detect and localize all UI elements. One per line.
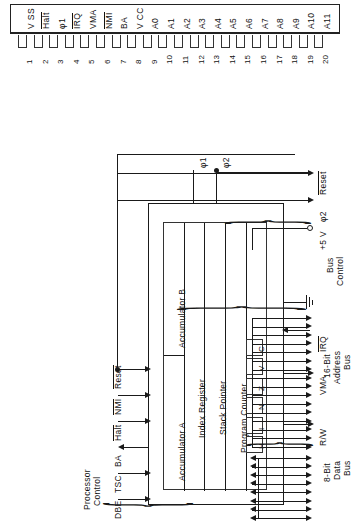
pin-number-10: 10 — [165, 55, 174, 64]
address-line-14 — [252, 438, 308, 439]
data-line-6 — [252, 510, 308, 511]
data-line-2 — [252, 475, 308, 476]
pin-label-19: A10 — [306, 13, 316, 29]
register-separator-1 — [204, 223, 205, 491]
processor-control-tsc-arrow — [145, 470, 151, 476]
pin-6[interactable] — [96, 35, 105, 48]
processor-control-nmi-arrow — [145, 392, 151, 398]
data-bus-trunk — [258, 458, 259, 518]
phi1-wire — [193, 170, 194, 203]
pin-10[interactable] — [158, 35, 167, 48]
data-arrow-in-3 — [250, 480, 256, 486]
address-line-9 — [252, 395, 308, 396]
pin-14[interactable] — [221, 35, 230, 48]
pin-18[interactable] — [283, 35, 292, 48]
pin-number-14: 14 — [228, 55, 237, 64]
processor-control-brace: { — [92, 503, 188, 507]
address-line-15 — [252, 447, 308, 448]
pin-label-10: A1 — [166, 18, 176, 29]
processor-control-halt-arrow — [145, 418, 151, 424]
data-arrow-out-7 — [306, 515, 312, 521]
pin-2[interactable] — [34, 35, 43, 48]
pin-4[interactable] — [65, 35, 74, 48]
pin-9[interactable] — [143, 35, 152, 48]
flag-label-c: C — [257, 346, 266, 352]
pin-19[interactable] — [299, 35, 308, 48]
data-arrow-out-4 — [306, 489, 312, 495]
data-line-5 — [252, 501, 308, 502]
address-line-13 — [252, 430, 308, 431]
processor-control-label-2: Control — [92, 476, 102, 506]
address-arrow-2 — [306, 332, 312, 338]
phi2-wire — [216, 170, 217, 203]
address-arrow-11 — [306, 409, 312, 415]
pin-5[interactable] — [80, 35, 89, 48]
address-arrow-12 — [306, 418, 312, 424]
data-arrow-in-5 — [250, 498, 256, 504]
pin-20[interactable] — [314, 35, 323, 48]
pin-number-17: 17 — [275, 55, 284, 64]
pin-label-8: V CC — [135, 7, 145, 29]
data-arrow-in-7 — [250, 515, 256, 521]
processor-control-ba-arrow — [118, 444, 124, 450]
pin-label-15: A6 — [244, 18, 254, 29]
pin-number-18: 18 — [290, 55, 299, 64]
flag-label-n: N — [257, 404, 266, 410]
processor-control-label-1: Processor — [82, 469, 92, 510]
pin-15[interactable] — [236, 35, 245, 48]
pin-17[interactable] — [268, 35, 277, 48]
pin-11[interactable] — [174, 35, 183, 48]
pin-label-17: A8 — [275, 18, 285, 29]
data-arrow-out-2 — [306, 472, 312, 478]
pin-label-12: A3 — [197, 18, 207, 29]
bus-control-phi2-wire — [117, 200, 310, 201]
phi2-label: φ2 — [221, 157, 231, 168]
bus-control-phi2-arrow — [308, 197, 314, 203]
address-bus-trunk — [252, 318, 253, 447]
data-line-7 — [252, 518, 308, 519]
pin-8[interactable] — [127, 35, 136, 48]
pin-label-20: A11 — [322, 13, 332, 29]
data-arrow-out-0 — [306, 455, 312, 461]
address-line-7 — [252, 378, 308, 379]
pin-label-18: A9 — [291, 18, 301, 29]
data-line-3 — [252, 484, 308, 485]
address-arrow-9 — [306, 392, 312, 398]
processor-control-tsc-label: TSC — [113, 475, 123, 493]
data-arrow-out-5 — [306, 498, 312, 504]
pin-number-1: 1 — [25, 60, 34, 64]
flag-cell-i — [246, 417, 263, 434]
data-bus-label-1: 8-Bit — [322, 463, 332, 482]
phi1-label: φ1 — [198, 157, 208, 168]
block-diagram: Accumulator AAccumulator BIndex Register… — [0, 118, 347, 499]
data-arrow-in-2 — [250, 472, 256, 478]
pin-number-20: 20 — [321, 55, 330, 64]
data-line-0 — [252, 458, 308, 459]
address-bus-label-3: Bus — [342, 354, 352, 370]
data-bus-label-2: Data — [332, 461, 342, 480]
pin-16[interactable] — [252, 35, 261, 48]
address-line-0 — [252, 318, 308, 319]
processor-control-ba-label: BA — [113, 455, 123, 467]
pin-3[interactable] — [49, 35, 58, 48]
pin-1[interactable] — [18, 35, 27, 48]
processor-control-ba-wire — [124, 447, 148, 448]
register-accumulator-b-label: Accumulator B — [177, 289, 187, 348]
data-arrow-in-1 — [250, 463, 256, 469]
pin-label-14: A5 — [228, 18, 238, 29]
supply-terminal — [307, 225, 313, 231]
bus-control-irq-label: IRQ — [318, 336, 328, 352]
register-index-label: Index Register — [197, 379, 207, 438]
pin-7[interactable] — [112, 35, 121, 48]
pin-13[interactable] — [205, 35, 214, 48]
register-stack-pointer-label: Stack Pointer — [218, 381, 228, 435]
processor-control-nmi-wire — [118, 395, 146, 396]
bus-control-label-2: Control — [335, 256, 345, 286]
pin-label-4: IRQ — [72, 13, 82, 29]
pin-12[interactable] — [190, 35, 199, 48]
data-arrow-out-3 — [306, 480, 312, 486]
address-bus-label-1: 16-Bit — [322, 354, 332, 378]
reset-feedback-horizontal — [117, 154, 295, 155]
pin-number-3: 3 — [56, 60, 65, 64]
